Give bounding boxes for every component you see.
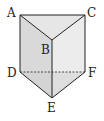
label-C: C (87, 6, 96, 20)
label-F: F (88, 66, 96, 80)
label-A: A (6, 6, 16, 20)
label-D: D (7, 66, 17, 80)
label-B: B (41, 43, 50, 57)
triangular-prism-diagram: A B C D E F (0, 0, 104, 121)
label-E: E (47, 101, 56, 115)
